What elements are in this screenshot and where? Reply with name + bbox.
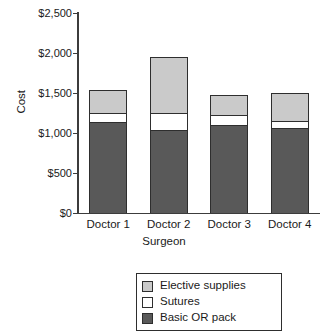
legend-label-elective: Elective supplies (160, 280, 246, 292)
bar-segment-elective[interactable] (150, 57, 188, 113)
bar-segment-basic[interactable] (150, 131, 188, 213)
y-axis-tick-label: $0 (60, 208, 72, 219)
bar-top-edge (150, 57, 188, 58)
bar-segment-sutures[interactable] (150, 113, 188, 131)
y-axis-tick-mark (73, 213, 78, 214)
y-axis-tick-mark (73, 173, 78, 174)
bar-segment-basic[interactable] (210, 126, 248, 213)
bar-segment-elective[interactable] (271, 93, 309, 121)
bar-segment-basic[interactable] (271, 129, 309, 213)
y-axis-tick-mark (73, 133, 78, 134)
legend-item-elective[interactable]: Elective supplies (142, 278, 276, 294)
legend-swatch-sutures (142, 297, 153, 308)
legend-label-basic: Basic OR pack (160, 312, 236, 324)
legend-label-sutures: Sutures (160, 296, 200, 308)
x-axis-title: Surgeon (0, 236, 328, 248)
y-axis-tick-label: $1,500 (38, 88, 72, 99)
x-axis-label-4: Doctor 4 (260, 219, 321, 231)
y-axis-tick-mark (73, 53, 78, 54)
bar-segment-sutures[interactable] (89, 113, 127, 123)
bar-top-edge (271, 93, 309, 94)
x-axis-label-2: Doctor 2 (139, 219, 200, 231)
bar-4[interactable] (271, 93, 309, 213)
legend-swatch-basic (142, 313, 153, 324)
y-axis-tick-label: $2,000 (38, 48, 72, 59)
y-axis-title: Cost (16, 72, 28, 132)
bar-segment-sutures[interactable] (271, 121, 309, 129)
x-axis-label-3: Doctor 3 (199, 219, 260, 231)
bar-2[interactable] (150, 57, 188, 213)
stacked-bar-chart: Cost $0$500$1,000$1,500$2,000$2,500 Doct… (0, 0, 328, 336)
bar-top-edge (89, 90, 127, 91)
y-axis-tick-label: $1,000 (38, 128, 72, 139)
bar-segment-basic[interactable] (89, 123, 127, 213)
bar-3[interactable] (210, 95, 248, 213)
legend: Elective suppliesSuturesBasic OR pack (136, 273, 282, 331)
bar-segment-sutures[interactable] (210, 115, 248, 126)
legend-swatch-elective (142, 281, 153, 292)
bar-top-edge (210, 95, 248, 96)
legend-item-sutures[interactable]: Sutures (142, 294, 276, 310)
x-axis-label-1: Doctor 1 (78, 219, 139, 231)
bar-segment-elective[interactable] (210, 95, 248, 115)
y-axis-tick-label: $2,500 (38, 8, 72, 19)
bar-1[interactable] (89, 90, 127, 213)
bar-segment-elective[interactable] (89, 90, 127, 113)
y-axis-tick-mark (73, 13, 78, 14)
y-axis-tick-mark (73, 93, 78, 94)
plot-area: $0$500$1,000$1,500$2,000$2,500 (78, 13, 320, 213)
y-axis-tick-label: $500 (48, 168, 72, 179)
legend-item-basic[interactable]: Basic OR pack (142, 310, 276, 326)
